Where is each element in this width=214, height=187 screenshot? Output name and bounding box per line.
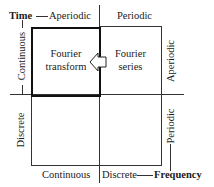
time-connector-line bbox=[36, 16, 48, 17]
left-continuous-label: Continuous bbox=[16, 28, 28, 84]
left-discrete-label: Discrete bbox=[15, 105, 27, 155]
outer-top-border bbox=[99, 26, 162, 27]
frequency-axis-label: Frequency bbox=[154, 169, 202, 181]
outer-bottom-border bbox=[31, 165, 162, 166]
fourier-series-line2: series bbox=[100, 60, 161, 73]
top-periodic-label: Periodic bbox=[117, 10, 152, 22]
right-aperiodic-label: Aperiodic bbox=[165, 36, 177, 86]
fourier-series-label: Fourier series bbox=[100, 47, 161, 73]
outer-left-border bbox=[31, 94, 32, 166]
time-vertical-connector bbox=[22, 20, 23, 28]
frequency-vertical-connector bbox=[170, 144, 171, 171]
left-axis-line bbox=[22, 85, 23, 94]
frequency-connector-line bbox=[137, 175, 153, 176]
time-axis-label: Time bbox=[9, 10, 32, 22]
bottom-discrete-label: Discrete bbox=[102, 169, 137, 181]
left-arrow-icon bbox=[89, 51, 107, 73]
bottom-continuous-label: Continuous bbox=[42, 169, 90, 181]
fourier-series-line1: Fourier bbox=[100, 47, 161, 60]
top-aperiodic-label: Aperiodic bbox=[49, 10, 91, 22]
right-row-divider bbox=[162, 94, 184, 95]
left-row-divider bbox=[10, 94, 32, 95]
right-periodic-label: Periodic bbox=[165, 105, 177, 147]
outer-right-border bbox=[161, 27, 162, 166]
